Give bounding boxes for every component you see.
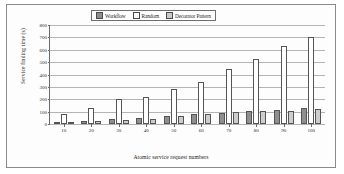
x-tick-mark [174,124,175,127]
y-tick-label: 500 [40,60,48,65]
bar-decorator [260,111,266,124]
bar-workflow [81,121,87,124]
x-tick-mark [91,124,92,127]
bar-group: 90 [270,25,298,124]
y-tick-label: 300 [40,84,48,89]
bar-random [88,108,94,124]
x-tick-mark [201,124,202,127]
x-tick-label: 40 [133,128,161,133]
y-axis-title: Service finding time (s) [20,4,26,108]
bar-group: 70 [215,25,243,124]
x-tick-label: 30 [105,128,133,133]
x-tick-label: 90 [270,128,298,133]
bar-decorator [233,112,239,124]
bar-decorator [288,111,294,124]
bar-workflow [246,111,252,124]
bar-random [226,69,232,124]
x-tick-label: 20 [78,128,106,133]
bar-workflow [54,122,60,124]
bar-decorator [95,121,101,124]
bar-workflow [219,113,225,124]
bar-workflow [274,110,280,124]
bar-group: 50 [160,25,188,124]
bar-decorator [123,120,129,124]
bar-group: 10 [50,25,78,124]
bar-group: 30 [105,25,133,124]
bar-random [253,59,259,124]
bar-workflow [164,116,170,124]
x-tick-label: 70 [215,128,243,133]
bar-random [61,114,67,124]
legend-swatch-workflow-icon [96,12,103,19]
bar-workflow [109,119,115,124]
legend-item-decorator: Decorator Pattern [166,12,211,19]
legend-item-workflow: Workflow [96,12,126,19]
bar-workflow [301,108,307,124]
bar-group: 20 [78,25,106,124]
bar-decorator [178,116,184,124]
x-tick-label: 50 [160,128,188,133]
y-tick-label: 700 [40,35,48,40]
x-tick-label: 100 [298,128,326,133]
bar-random [116,99,122,124]
bar-workflow [191,114,197,124]
bar-random [198,82,204,124]
bar-random [171,89,177,124]
x-tick-mark [256,124,257,127]
x-tick-mark [284,124,285,127]
x-tick-mark [146,124,147,127]
legend-item-random: Random [133,12,159,19]
y-tick-label: 0 [45,122,48,127]
bar-workflow [136,118,142,124]
legend-label-workflow: Workflow [105,13,126,19]
legend-label-decorator: Decorator Pattern [175,13,211,19]
bar-group: 80 [243,25,271,124]
legend-swatch-decorator-icon [166,12,173,19]
bar-random [308,37,314,124]
x-tick-label: 80 [243,128,271,133]
bar-random [281,46,287,124]
bar-group: 40 [133,25,161,124]
bar-random [143,97,149,124]
legend-swatch-random-icon [133,12,140,19]
bar-decorator [205,114,211,124]
x-axis-title: Atomic service request numbers [7,154,335,160]
chart-figure: Workflow Random Decorator Pattern Servic… [6,4,336,168]
y-tick-label: 200 [40,97,48,102]
y-tick-label: 600 [40,47,48,52]
bar-group: 60 [188,25,216,124]
x-tick-mark [311,124,312,127]
chart-legend: Workflow Random Decorator Pattern [91,10,216,21]
x-tick-label: 60 [188,128,216,133]
x-tick-mark [64,124,65,127]
bar-decorator [68,122,74,124]
bar-groups: 102030405060708090100 [50,25,325,124]
x-tick-mark [229,124,230,127]
legend-label-random: Random [142,13,159,19]
bar-decorator [315,109,321,124]
plot-area: 0100200300400500600700800 10203040506070… [49,25,325,125]
y-tick-label: 400 [40,72,48,77]
y-tick-label: 100 [40,109,48,114]
bar-group: 100 [298,25,326,124]
x-tick-mark [119,124,120,127]
y-tick-mark [48,124,50,125]
bar-decorator [150,119,156,124]
y-tick-label: 800 [40,23,48,28]
x-tick-label: 10 [50,128,78,133]
